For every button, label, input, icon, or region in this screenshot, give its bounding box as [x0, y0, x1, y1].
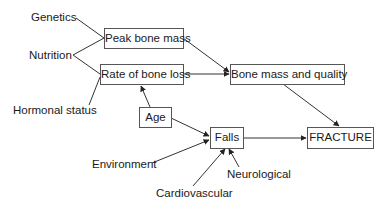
- label-genetics: Genetics: [31, 11, 76, 23]
- node-fracture: FRACTURE: [307, 127, 374, 149]
- edge-cardiovascular-falls: [193, 149, 225, 186]
- edge-bonemass-fracture: [283, 84, 339, 126]
- node-peak-bone-mass: Peak bone mass: [104, 28, 184, 49]
- label-nutrition: Nutrition: [29, 49, 72, 61]
- label-cardiovascular: Cardiovascular: [156, 187, 233, 199]
- edge-nutrition-rate: [73, 55, 100, 74]
- node-bone-mass-quality: Bone mass and quality: [230, 64, 345, 85]
- edge-hormonal-rate: [89, 77, 100, 105]
- edge-genetics-peak: [76, 18, 104, 38]
- node-falls: Falls: [210, 127, 244, 149]
- label-environment: Environment: [92, 158, 157, 170]
- node-rate-of-bone-loss: Rate of bone loss: [100, 64, 184, 85]
- label-hormonal-status: Hormonal status: [13, 104, 97, 116]
- edge-neurological-falls: [229, 149, 239, 167]
- edge-age-falls: [171, 118, 209, 136]
- edge-age-rate: [141, 86, 150, 107]
- label-neurological: Neurological: [227, 168, 291, 180]
- edge-environment-falls: [152, 140, 209, 163]
- node-age: Age: [139, 107, 172, 128]
- edge-nutrition-peak: [73, 38, 104, 55]
